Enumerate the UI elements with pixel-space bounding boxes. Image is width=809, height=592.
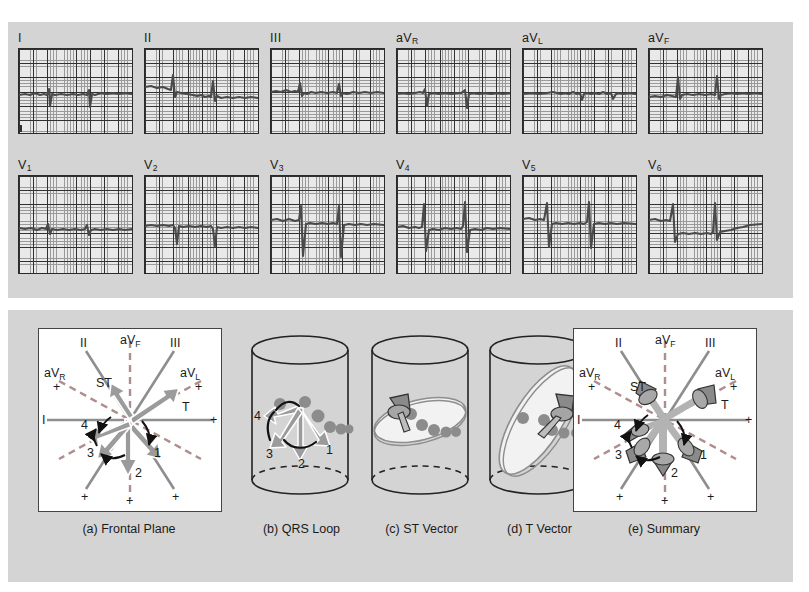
ecg-trace (19, 176, 132, 273)
loop-number-1: 1 (154, 446, 161, 460)
loop-number-4: 4 (614, 418, 621, 432)
lead-label: V2 (144, 159, 158, 173)
ecg-strip (144, 175, 259, 274)
vector-diagram-panel: II III I aVF aVR aVL ST T 1 2 3 4 + + + … (8, 310, 793, 582)
polarity-II-pos: + (707, 490, 714, 504)
lead-label: aVR (396, 32, 419, 46)
ecg-strip (648, 175, 763, 274)
axis-label-aVF: aVF (655, 333, 676, 349)
ecg-trace (523, 49, 636, 133)
axis-label-I: I (577, 413, 580, 427)
lead-label: II (144, 32, 152, 46)
axis-label-I: I (42, 413, 45, 427)
lead-label: V5 (522, 159, 536, 173)
vector-label-T: T (182, 400, 190, 414)
polarity-II-pos: + (172, 490, 179, 504)
lead-label: I (18, 32, 22, 46)
axis-label-III: III (705, 336, 715, 350)
lead-label: III (270, 32, 282, 46)
ecg-strip-panel: I II III aVR (8, 22, 793, 298)
polarity-bottom: + (661, 494, 668, 508)
loop-number-3: 3 (615, 448, 622, 462)
ecg-trace (523, 176, 636, 273)
caption-summary: (e) Summary (573, 522, 755, 536)
ecg-trace (145, 176, 258, 273)
ecg-trace (145, 49, 258, 133)
caption-frontal-plane: (a) Frontal Plane (38, 522, 220, 536)
summary-diagram: II III I aVF aVR aVL ST T 1 2 3 4 + + + … (573, 328, 757, 512)
vector-label-ST: ST (96, 376, 112, 390)
ecg-strip (522, 48, 637, 134)
lead-label: aVF (648, 32, 670, 46)
loop-number-3: 3 (87, 446, 94, 460)
polarity-bottom: + (126, 494, 133, 508)
ecg-trace (19, 49, 132, 133)
loop-number-2: 2 (298, 457, 305, 471)
axis-label-II: II (615, 336, 622, 350)
ecg-strip (396, 48, 511, 134)
axis-label-II: II (80, 336, 87, 350)
ecg-strip (648, 48, 763, 134)
vector-label-T: T (721, 398, 729, 412)
polarity-aVL: + (195, 380, 202, 394)
ecg-strip (522, 175, 637, 274)
lead-label: V1 (18, 159, 32, 173)
ecg-trace (397, 176, 510, 273)
ecg-trace (649, 176, 762, 273)
axis-label-III: III (170, 336, 180, 350)
polarity-aVL: + (730, 380, 737, 394)
ecg-strip (270, 175, 385, 274)
ecg-strip (396, 175, 511, 274)
lead-label: V3 (270, 159, 284, 173)
lead-label: V6 (648, 159, 662, 173)
ecg-strip (144, 48, 259, 134)
calibration-mark (20, 125, 22, 132)
loop-number-2: 2 (135, 466, 142, 480)
loop-number-3: 3 (266, 447, 273, 461)
polarity-aVR: + (588, 380, 595, 394)
loop-number-4: 4 (81, 418, 88, 432)
caption-st-vector: (c) ST Vector (364, 522, 479, 536)
ecg-strip (270, 48, 385, 134)
qrs-loop-cylinder: 1 2 3 4 (248, 328, 353, 510)
ecg-trace (271, 176, 384, 273)
ecg-strip (18, 175, 133, 274)
vector-label-ST: ST (630, 380, 646, 394)
st-vector-cylinder (368, 328, 473, 510)
frontal-plane-diagram: II III I aVF aVR aVL ST T 1 2 3 4 + + + … (38, 328, 222, 512)
loop-number-4: 4 (254, 409, 261, 423)
loop-number-2: 2 (671, 466, 678, 480)
polarity-right: + (210, 413, 217, 427)
lead-label: V4 (396, 159, 410, 173)
polarity-right: + (745, 413, 752, 427)
ecg-trace (271, 49, 384, 133)
polarity-III-neg: + (616, 490, 623, 504)
polarity-III-neg: + (81, 490, 88, 504)
loop-number-1: 1 (326, 443, 333, 457)
lead-label: aVL (522, 32, 543, 46)
caption-qrs-loop: (b) QRS Loop (244, 522, 359, 536)
ecg-trace (649, 49, 762, 133)
ecg-trace (397, 49, 510, 133)
ecg-strip (18, 48, 133, 134)
loop-number-1: 1 (700, 448, 707, 462)
axis-label-aVF: aVF (120, 333, 141, 349)
polarity-aVR: + (53, 380, 60, 394)
